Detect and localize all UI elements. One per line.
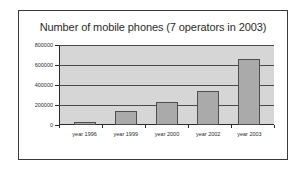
- bar-slot: [229, 45, 270, 125]
- y-tick-label: 600000: [35, 62, 53, 68]
- chart-title: Number of mobile phones (7 operators in …: [19, 21, 287, 33]
- y-tick-label: 400000: [35, 82, 53, 88]
- plot-wrapper: 0200000400000600000800000: [59, 45, 274, 125]
- x-tick-mark: [102, 125, 103, 128]
- x-tick-mark: [59, 125, 60, 128]
- x-axis-label: year 1999: [105, 131, 146, 137]
- x-tick-marks-group: [59, 125, 274, 128]
- bars-group: [59, 45, 274, 125]
- x-axis-label: year 2002: [188, 131, 229, 137]
- bar-slot: [188, 45, 229, 125]
- x-tick-mark: [188, 125, 189, 128]
- bar-slot: [64, 45, 105, 125]
- x-tick-mark: [274, 125, 275, 128]
- x-tick-mark: [145, 125, 146, 128]
- bar-slot: [105, 45, 146, 125]
- x-tick-mark: [231, 125, 232, 128]
- y-tick-label: 800000: [35, 42, 53, 48]
- chart-page: Number of mobile phones (7 operators in …: [0, 0, 306, 172]
- bar[interactable]: [156, 102, 178, 125]
- bar[interactable]: [115, 111, 137, 125]
- y-tick-label: 200000: [35, 102, 53, 108]
- x-axis-label: year 2000: [146, 131, 187, 137]
- y-tick-label: 0: [50, 122, 53, 128]
- chart-frame: Number of mobile phones (7 operators in …: [18, 10, 288, 160]
- bar[interactable]: [238, 59, 260, 125]
- bar-slot: [146, 45, 187, 125]
- x-axis-label: year 2003: [229, 131, 270, 137]
- bar[interactable]: [197, 91, 219, 125]
- x-axis-label: year 1996: [64, 131, 105, 137]
- x-axis-labels-group: year 1996year 1999year 2000year 2002year…: [59, 131, 274, 137]
